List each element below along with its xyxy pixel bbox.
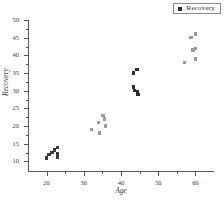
x-tick-minor [177, 172, 178, 174]
x-tick-major: 20 [47, 172, 48, 176]
x-tick-major: 60 [195, 172, 196, 176]
data-point [183, 61, 186, 64]
x-tick-label: 60 [189, 179, 201, 186]
data-point [194, 32, 197, 35]
legend-marker-recovery [178, 7, 182, 11]
data-point [104, 124, 107, 127]
y-tick-minor [26, 153, 28, 154]
x-tick-label: 40 [115, 179, 127, 186]
y-tick-label: 10 [13, 157, 20, 164]
data-point [132, 71, 135, 74]
x-tick-major: 50 [158, 172, 159, 176]
plot-area: 101520253035404550 2030405060 [28, 20, 214, 172]
x-axis-title: Age [28, 186, 214, 195]
y-tick-minor [26, 29, 28, 30]
data-point [98, 131, 101, 134]
y-tick-minor [26, 82, 28, 83]
x-tick-label: 30 [78, 179, 90, 186]
y-tick-minor [26, 64, 28, 65]
y-tick-major: 45 [24, 38, 28, 39]
y-tick-minor [26, 135, 28, 136]
y-tick-minor [26, 47, 28, 48]
x-tick-major: 30 [84, 172, 85, 176]
legend: Recovery [173, 3, 221, 14]
data-point [103, 117, 106, 120]
x-tick-label: 20 [41, 179, 53, 186]
data-point [135, 68, 138, 71]
y-tick-label: 20 [13, 122, 20, 129]
x-tick-label: 50 [152, 179, 164, 186]
y-tick-label: 15 [13, 140, 20, 147]
data-point [56, 146, 59, 149]
x-tick-minor [65, 172, 66, 174]
y-tick-major: 15 [24, 144, 28, 145]
data-point [136, 93, 139, 96]
data-point [194, 47, 197, 50]
y-tick-minor [26, 117, 28, 118]
y-tick-major: 40 [24, 55, 28, 56]
legend-label-recovery: Recovery [187, 5, 215, 12]
y-tick-label: 50 [13, 16, 20, 23]
y-tick-label: 25 [13, 104, 20, 111]
x-tick-major: 40 [121, 172, 122, 176]
y-tick-major: 50 [24, 20, 28, 21]
y-tick-major: 25 [24, 108, 28, 109]
data-point [45, 156, 48, 159]
x-tick-minor [102, 172, 103, 174]
data-point [90, 128, 93, 131]
y-axis-line [28, 20, 29, 172]
data-point [194, 57, 197, 60]
y-tick-major: 20 [24, 126, 28, 127]
y-axis-title: Recovery [1, 68, 10, 96]
data-point [97, 121, 100, 124]
y-tick-label: 30 [13, 87, 20, 94]
y-tick-label: 35 [13, 69, 20, 76]
x-tick-minor [140, 172, 141, 174]
y-tick-minor [26, 100, 28, 101]
data-point [56, 156, 59, 159]
y-tick-major: 10 [24, 161, 28, 162]
y-tick-label: 40 [13, 51, 20, 58]
y-tick-major: 30 [24, 91, 28, 92]
data-point [189, 36, 192, 39]
y-tick-label: 45 [13, 34, 20, 41]
y-tick-major: 35 [24, 73, 28, 74]
scatter-plot-figure: Recovery 101520253035404550 2030405060 R… [0, 0, 224, 204]
